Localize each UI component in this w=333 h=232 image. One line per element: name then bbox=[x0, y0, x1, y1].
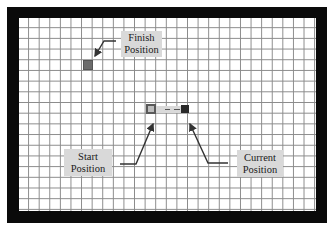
path-dash bbox=[165, 109, 170, 110]
path-dash bbox=[174, 109, 180, 110]
current-label-line2: Position bbox=[243, 164, 277, 176]
start-position-label: Start Position bbox=[64, 149, 112, 176]
start-label-line2: Position bbox=[71, 163, 105, 175]
finish-label-line2: Position bbox=[124, 44, 158, 56]
current-position-label: Current Position bbox=[237, 150, 283, 177]
current-label-line1: Current bbox=[244, 152, 276, 164]
finish-position-label: Finish Position bbox=[121, 31, 162, 57]
start-label-line1: Start bbox=[78, 151, 98, 163]
grid-area bbox=[19, 18, 316, 211]
finish-label-line1: Finish bbox=[128, 32, 154, 44]
finish-position-cell bbox=[83, 60, 93, 70]
current-position-cell bbox=[181, 105, 189, 113]
start-position-cell bbox=[146, 104, 156, 114]
